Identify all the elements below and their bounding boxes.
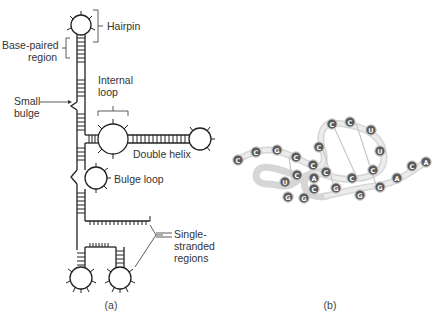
- label-small-bulge-2: bulge: [14, 107, 40, 119]
- caption-a: (a): [105, 299, 118, 311]
- nucleotide-C: C: [308, 160, 318, 170]
- nucleotide-G: G: [299, 193, 309, 203]
- bulge-loop: [71, 163, 111, 250]
- nucleotide-letter: A: [311, 175, 316, 183]
- caption-b: (b): [324, 299, 337, 311]
- nucleotide-letter: C: [330, 121, 335, 129]
- nucleotide-C: C: [347, 173, 357, 183]
- label-base-paired-2: region: [28, 51, 57, 63]
- label-base-paired-1: Base-paired: [2, 39, 59, 51]
- small-bulge-arrowhead: [68, 100, 72, 104]
- nucleotide-C: C: [233, 155, 243, 165]
- label-bulge-loop: Bulge loop: [114, 173, 164, 185]
- nucleotide-letter: C: [236, 157, 241, 165]
- main-stem: [71, 34, 85, 170]
- nucleotide-letter: C: [371, 167, 376, 175]
- nucleotide-letter: C: [317, 144, 322, 152]
- nucleotide-letter: C: [294, 154, 299, 162]
- nucleotide-G: G: [272, 145, 282, 155]
- nucleotide-U: U: [280, 177, 290, 187]
- nucleotide-G: G: [283, 192, 293, 202]
- nucleotide-letter: C: [324, 169, 329, 177]
- nucleotide-letter: G: [285, 194, 290, 202]
- nucleotide-C: C: [327, 119, 337, 129]
- panel-b-3d-fold: CCGCCCCCUUCCCACGGUCGGGACA (b): [233, 117, 431, 311]
- label-single-stranded-2: stranded: [174, 240, 215, 252]
- nucleotide-letter: A: [423, 159, 428, 167]
- nucleotide-letter: G: [377, 184, 382, 192]
- nucleotide-A: A: [421, 157, 431, 167]
- rna-structure-figure: Hairpin Base-paired region Internal loop…: [0, 0, 435, 318]
- label-hairpin: Hairpin: [107, 20, 140, 32]
- nucleotide-A: A: [392, 173, 402, 183]
- nucleotide-U: U: [375, 146, 385, 156]
- nucleotide-letter: C: [350, 175, 355, 183]
- nucleotide-letter: C: [348, 119, 353, 127]
- single-stranded-tail: [85, 216, 150, 225]
- label-single-stranded-3: regions: [174, 252, 208, 264]
- nucleotide-letter: G: [333, 185, 338, 193]
- nucleotide-G: G: [375, 182, 385, 192]
- nucleotide-G: G: [331, 183, 341, 193]
- nucleotide-C: C: [321, 167, 331, 177]
- nucleotide-C: C: [368, 165, 378, 175]
- nucleotide-letter: A: [394, 175, 399, 183]
- nucleotide-U: U: [366, 125, 376, 135]
- nucleotide-beads: CCGCCCCCUUCCCACGGUCGGGACA: [233, 117, 431, 203]
- nucleotide-C: C: [345, 117, 355, 127]
- hairpin-bracket: [93, 10, 103, 42]
- label-internal-loop-2: loop: [98, 86, 118, 98]
- single-stranded-leaders: [135, 225, 163, 267]
- nucleotide-letter: U: [282, 179, 287, 187]
- nucleotide-A: A: [309, 173, 319, 183]
- nucleotide-C: C: [291, 152, 301, 162]
- nucleotide-letter: G: [301, 195, 306, 203]
- bottom-hairpins: [66, 243, 135, 293]
- nucleotide-C: C: [407, 161, 417, 171]
- label-internal-loop-1: Internal: [98, 74, 133, 86]
- label-single-stranded-1: Single-: [174, 228, 207, 240]
- nucleotide-letter: C: [312, 186, 317, 194]
- nucleotide-G: G: [355, 190, 365, 200]
- base-paired-bracket: [62, 38, 70, 58]
- nucleotide-C: C: [314, 142, 324, 152]
- nucleotide-C: C: [251, 147, 261, 157]
- nucleotide-C: C: [309, 184, 319, 194]
- nucleotide-C: C: [292, 170, 302, 180]
- label-double-helix: Double helix: [133, 148, 192, 160]
- internal-loop-branch: [85, 106, 128, 159]
- label-small-bulge-1: Small: [14, 95, 40, 107]
- panel-a-schematic: Hairpin Base-paired region Internal loop…: [2, 10, 215, 311]
- nucleotide-letter: C: [410, 163, 415, 171]
- nucleotide-letter: G: [274, 147, 279, 155]
- nucleotide-letter: G: [357, 192, 362, 200]
- top-hairpin-loop: [67, 11, 95, 35]
- nucleotide-letter: C: [295, 172, 300, 180]
- nucleotide-letter: U: [368, 127, 373, 135]
- nucleotide-letter: C: [311, 162, 316, 170]
- nucleotide-letter: C: [254, 149, 259, 157]
- nucleotide-letter: U: [377, 148, 382, 156]
